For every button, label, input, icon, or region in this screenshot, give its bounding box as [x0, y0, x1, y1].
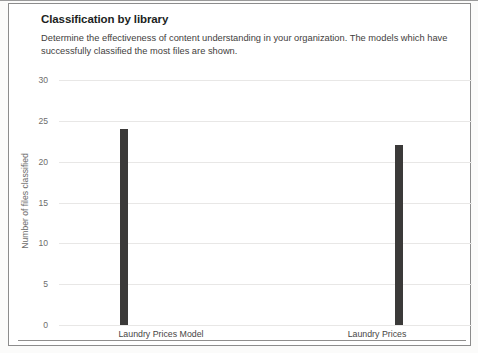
card-subtitle-line-2: successfully classified the most files a…	[41, 45, 451, 58]
y-tick-label-20: 20	[24, 158, 48, 167]
x-category-label-1: Laundry Prices Model	[96, 329, 226, 339]
card-title: Classification by library	[41, 13, 168, 25]
classification-chart-card: Classification by library Determine the …	[8, 3, 471, 346]
y-tick-label-5: 5	[24, 280, 48, 289]
card-subtitle: Determine the effectiveness of content u…	[41, 32, 451, 57]
y-tick-label-15: 15	[24, 199, 48, 208]
y-tick-label-0: 0	[24, 321, 48, 330]
gridline-y-25	[59, 121, 472, 122]
bar-laundry-prices[interactable]	[395, 145, 403, 325]
gridline-y-0	[59, 325, 472, 326]
chart-bottom-rule	[18, 340, 466, 341]
x-category-label-2: Laundry Prices	[312, 329, 442, 339]
card-subtitle-line-1: Determine the effectiveness of content u…	[41, 32, 451, 45]
screenshot-top-edge	[0, 0, 478, 1]
y-tick-label-25: 25	[24, 117, 48, 126]
gridline-y-30	[59, 80, 472, 81]
bar-laundry-prices-model[interactable]	[120, 129, 128, 325]
y-tick-label-10: 10	[24, 239, 48, 248]
y-tick-label-30: 30	[24, 76, 48, 85]
